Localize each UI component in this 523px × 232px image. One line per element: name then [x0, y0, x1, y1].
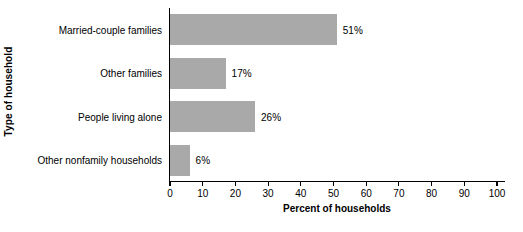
bar-chart: Type of household Married-couple familie… — [0, 0, 523, 232]
plot-area: 51%17%26%6% — [170, 8, 497, 182]
x-tick — [366, 182, 367, 186]
x-tick-label: 70 — [393, 188, 404, 199]
bar-group: 26% — [170, 101, 497, 132]
x-tick-label: 0 — [167, 188, 173, 199]
x-tick — [398, 182, 399, 186]
x-tick-label: 40 — [295, 188, 306, 199]
bar-value-label: 51% — [343, 24, 363, 35]
x-tick — [202, 182, 203, 186]
bar-value-label: 6% — [196, 155, 210, 166]
category-label: Married-couple families — [59, 24, 162, 35]
y-axis-title-text: Type of household — [4, 46, 15, 136]
x-tick — [268, 182, 269, 186]
y-axis-title: Type of household — [0, 0, 18, 182]
x-tick — [431, 182, 432, 186]
x-tick-label: 100 — [489, 188, 506, 199]
x-tick — [300, 182, 301, 186]
category-label: Other families — [100, 68, 162, 79]
bar[interactable] — [170, 145, 190, 176]
x-tick-label: 50 — [328, 188, 339, 199]
bar[interactable] — [170, 14, 337, 45]
x-tick — [235, 182, 236, 186]
x-tick-label: 60 — [361, 188, 372, 199]
category-label: People living alone — [78, 111, 162, 122]
bar-group: 17% — [170, 58, 497, 89]
x-tick — [496, 182, 497, 186]
x-tick-label: 90 — [459, 188, 470, 199]
x-axis-title: Percent of households — [169, 203, 505, 214]
category-label: Other nonfamily households — [37, 155, 162, 166]
x-tick-label: 20 — [230, 188, 241, 199]
bar-value-label: 17% — [232, 68, 252, 79]
category-label-group: Married-couple familiesOther familiesPeo… — [18, 8, 162, 182]
bar-group: 51% — [170, 14, 497, 45]
bar[interactable] — [170, 101, 255, 132]
x-tick — [464, 182, 465, 186]
x-tick-label: 80 — [426, 188, 437, 199]
x-tick — [333, 182, 334, 186]
x-tick — [169, 182, 170, 186]
bar-group: 6% — [170, 145, 497, 176]
bar[interactable] — [170, 58, 226, 89]
x-tick-label: 30 — [263, 188, 274, 199]
bar-value-label: 26% — [261, 111, 281, 122]
x-tick-label: 10 — [197, 188, 208, 199]
